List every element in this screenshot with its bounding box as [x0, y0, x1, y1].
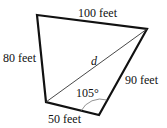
label-bottom-side: 50 feet — [48, 112, 82, 126]
label-top-side: 100 feet — [78, 6, 118, 20]
label-angle: 105° — [76, 86, 99, 100]
label-right-side: 90 feet — [125, 73, 159, 87]
quadrilateral-diagram: 100 feet 80 feet 90 feet 50 feet d 105° — [0, 0, 167, 128]
label-diagonal: d — [91, 54, 98, 68]
label-left-side: 80 feet — [3, 51, 37, 65]
